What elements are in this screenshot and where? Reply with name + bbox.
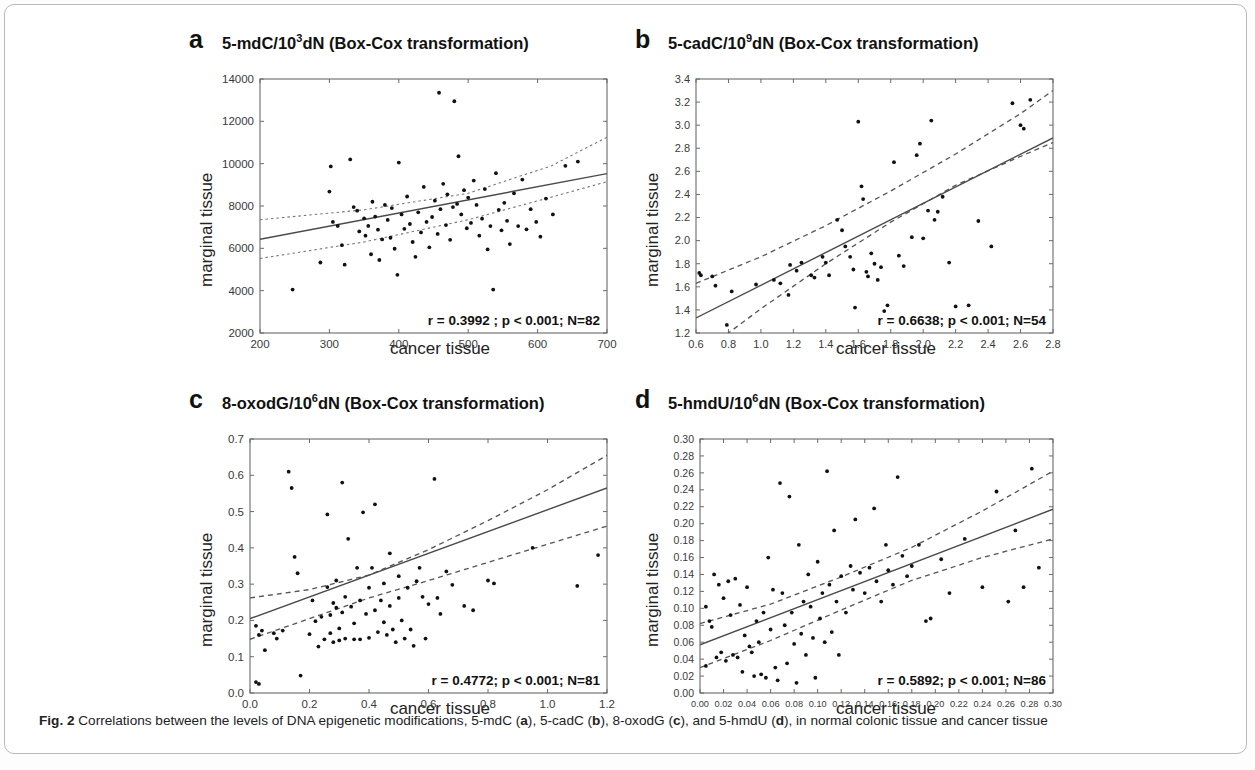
data-point — [403, 637, 407, 641]
data-point — [941, 195, 945, 199]
x-tick-label: 0.00 — [691, 699, 709, 709]
y-tick-label: 1.4 — [675, 304, 690, 316]
correlation-annotation: r = 0.5892; p < 0.001; N=86 — [878, 673, 1047, 688]
data-point — [799, 632, 803, 636]
data-point — [471, 608, 475, 612]
y-tick-label: 6000 — [228, 242, 254, 254]
regression-line — [260, 174, 607, 240]
data-point — [439, 207, 443, 211]
correlation-annotation: r = 0.4772; p < 0.001; N=81 — [432, 673, 601, 688]
data-point — [1019, 123, 1023, 127]
data-point — [337, 638, 341, 642]
confidence-band-lower — [700, 539, 1053, 668]
data-point — [257, 633, 261, 637]
y-tick-label: 0.18 — [674, 534, 695, 546]
data-point — [745, 585, 749, 589]
data-point — [329, 165, 333, 169]
data-point — [394, 640, 398, 644]
data-point — [879, 600, 883, 604]
data-point — [340, 481, 344, 485]
x-tick-label: 1.4 — [818, 338, 833, 350]
data-point — [343, 595, 347, 599]
data-point — [516, 224, 520, 228]
data-point — [853, 306, 857, 310]
data-point — [369, 252, 373, 256]
data-point — [785, 661, 789, 665]
data-point — [743, 634, 747, 638]
panel-a-title-tail: dN (Box-Cox transformation) — [302, 34, 528, 52]
panel-b-title-base: 5-cadC/10 — [668, 34, 746, 52]
data-point — [873, 262, 877, 266]
data-point — [869, 251, 873, 255]
y-tick-label: 0.2 — [228, 614, 244, 626]
y-tick-label: 0.12 — [674, 585, 695, 597]
x-tick-label: 600 — [528, 338, 547, 350]
data-point — [373, 502, 377, 506]
y-tick-label: 0.5 — [228, 506, 244, 518]
data-point — [477, 234, 481, 238]
data-point — [436, 232, 440, 236]
x-tick-label: 0.02 — [715, 699, 733, 709]
x-tick-label: 1.2 — [786, 338, 801, 350]
data-point — [391, 628, 395, 632]
x-tick-label: 0.18 — [903, 699, 921, 709]
data-point — [486, 247, 490, 251]
data-point — [480, 217, 484, 221]
data-point — [352, 621, 356, 625]
data-point — [427, 245, 431, 249]
data-point — [475, 203, 479, 207]
data-point — [778, 481, 782, 485]
data-point — [422, 185, 426, 189]
data-point — [1013, 529, 1017, 533]
data-point — [290, 486, 294, 490]
data-point — [840, 228, 844, 232]
data-point — [390, 206, 394, 210]
data-point — [813, 676, 817, 680]
x-tick-label: 1.0 — [540, 698, 556, 710]
y-tick-label: 0.6 — [228, 469, 244, 481]
data-point — [352, 637, 356, 641]
y-tick-label: 0.3 — [228, 578, 244, 590]
data-point — [337, 627, 341, 631]
regression-line — [700, 509, 1053, 644]
data-point — [897, 254, 901, 258]
data-point — [835, 218, 839, 222]
data-point — [299, 674, 303, 678]
data-point — [400, 619, 404, 623]
data-point — [892, 160, 896, 164]
data-point — [832, 529, 836, 533]
data-point — [795, 681, 799, 685]
data-point — [494, 171, 498, 175]
data-point — [715, 656, 719, 660]
data-point — [929, 119, 933, 123]
x-tick-label: 0.30 — [1044, 699, 1062, 709]
data-point — [400, 213, 404, 217]
figure-caption: Fig. 2 Correlations between the levels o… — [39, 712, 1224, 730]
panel-c-title: 8-oxodG/106dN (Box-Cox transformation) — [222, 389, 544, 412]
data-point — [414, 255, 418, 259]
data-point — [917, 543, 921, 547]
data-point — [402, 227, 406, 231]
data-point — [497, 208, 501, 212]
data-point — [866, 275, 870, 279]
data-point — [839, 574, 843, 578]
regression-line — [696, 138, 1053, 318]
data-point — [861, 197, 865, 201]
data-point — [334, 579, 338, 583]
data-point — [868, 566, 872, 570]
y-tick-label: 0.04 — [674, 653, 695, 665]
data-point — [752, 674, 756, 678]
x-tick-label: 0.04 — [738, 699, 756, 709]
data-point — [328, 190, 332, 194]
data-point — [416, 210, 420, 214]
data-point — [340, 611, 344, 615]
panel-a-title: 5-mdC/103dN (Box-Cox transformation) — [222, 29, 529, 52]
data-point — [349, 605, 353, 609]
y-tick-label: 2.4 — [675, 188, 690, 200]
data-point — [393, 247, 397, 251]
data-point — [896, 475, 900, 479]
data-point — [809, 605, 813, 609]
y-tick-label: 2.2 — [675, 211, 690, 223]
data-point — [864, 270, 868, 274]
y-tick-label: 10000 — [222, 158, 254, 170]
